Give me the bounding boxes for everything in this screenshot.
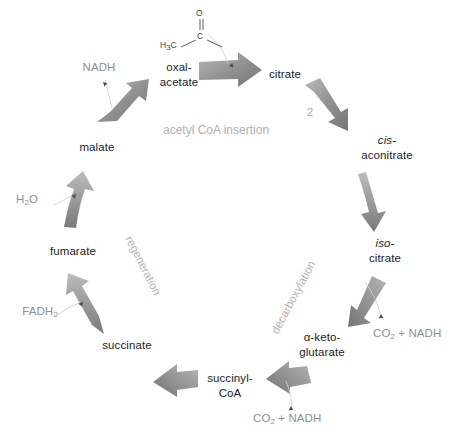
metabolite-malate: malate <box>71 140 123 154</box>
process-label-acetyl-coa-insertion: acetyl CoA insertion <box>163 123 269 137</box>
side-product-co2-nadh-isocitrate: CO2 + NADH <box>373 326 452 344</box>
metabolite-succinyl-coa: succinyl-CoA <box>200 371 260 400</box>
annotation-step-count-2: 2 <box>303 105 317 119</box>
acetyl-carbon-label: C <box>197 31 203 41</box>
metabolite-citrate: citrate <box>258 67 312 81</box>
side-product-water: H2O <box>8 192 46 210</box>
arrow-iso-citrate-to-ketoglutarate <box>348 276 386 327</box>
metabolite-fumarate: fumarate <box>43 244 103 258</box>
side-product-fadh2: FADH2 <box>18 304 62 322</box>
arrow-ketoglutarate-to-succinyl-coa <box>266 361 311 394</box>
metabolite-alpha-ketoglutarate: α-keto-glutarate <box>291 330 353 359</box>
arrow-succinyl-coa-to-succinate <box>153 364 198 397</box>
krebs-cycle-diagram: O C H3C oxal-acetate citrate cis-aconitr… <box>0 0 452 441</box>
metabolite-cis-aconitrate: cis-aconitrate <box>354 133 420 162</box>
metabolite-iso-citrate: iso-citrate <box>360 236 410 265</box>
metabolite-oxaloacetate: oxal-acetate <box>148 60 210 89</box>
arrow-fumarate-to-malate <box>64 171 94 228</box>
side-product-co2-nadh-ketoglutarate: CO2 + NADH <box>253 411 337 429</box>
side-product-nadh: NADH <box>74 60 124 74</box>
acetyl-methyl-label: H3C <box>160 40 177 52</box>
arrow-succinate-to-fumarate <box>66 273 104 334</box>
arrow-cis-aconitrate-to-iso-citrate <box>358 172 386 232</box>
metabolite-succinate: succinate <box>96 338 158 352</box>
acetyl-oxygen-label: O <box>196 8 203 18</box>
